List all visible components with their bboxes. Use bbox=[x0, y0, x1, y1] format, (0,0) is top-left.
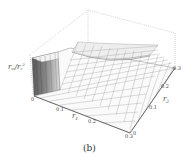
x-tick: 0.2 bbox=[88, 118, 96, 124]
y-axis-label: r2 bbox=[163, 95, 169, 104]
figure-caption: (b) bbox=[83, 143, 96, 153]
y-tick: 0.3 bbox=[173, 65, 181, 71]
surface-plot: 0 0.1 0.2 0.3 r1 0 0.1 0.2 0.3 r2 rm/rc2… bbox=[0, 0, 185, 159]
z-axis-label: rm/rc2 bbox=[8, 63, 25, 71]
x-tick: 0 bbox=[31, 96, 34, 102]
y-tick: 0 bbox=[133, 130, 136, 136]
surface-plot-figure: 0 0.1 0.2 0.3 r1 0 0.1 0.2 0.3 r2 rm/rc2… bbox=[0, 0, 185, 159]
x-axis-label: r1 bbox=[72, 112, 78, 121]
x-tick: 0.1 bbox=[56, 106, 64, 112]
y-tick: 0.1 bbox=[149, 104, 157, 110]
y-tick: 0.2 bbox=[161, 83, 169, 89]
x-tick: 0.3 bbox=[125, 133, 133, 139]
